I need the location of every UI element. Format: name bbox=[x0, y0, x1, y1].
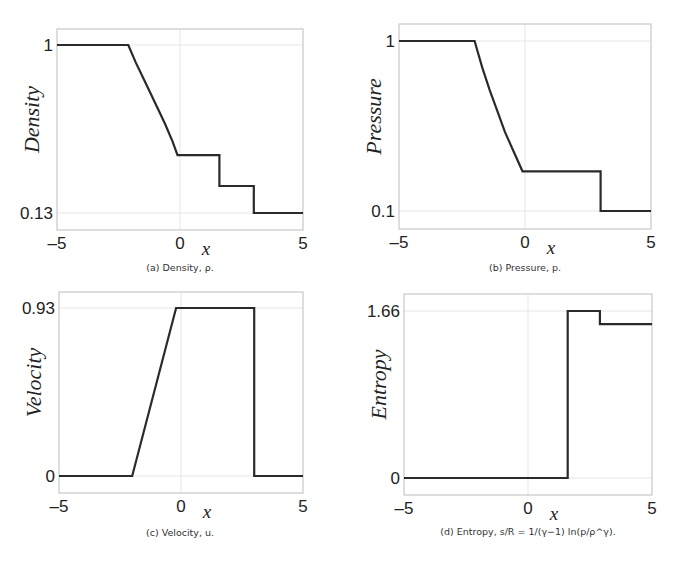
y-axis-label: Velocity bbox=[21, 347, 46, 417]
caption-d: (d) Entropy, s/R = 1/(γ−1) ln(p/ρ^γ). bbox=[440, 526, 615, 537]
caption-a-text: (a) Density, ρ. bbox=[146, 262, 213, 273]
x-tick-label: 0 bbox=[523, 499, 532, 518]
x-tick-label: 5 bbox=[647, 499, 656, 518]
caption-a: (a) Density, ρ. bbox=[146, 262, 213, 273]
y-tick-label: 1 bbox=[386, 32, 395, 51]
y-tick-label: 0.13 bbox=[20, 204, 53, 223]
y-axis-label: Pressure bbox=[361, 78, 386, 156]
y-tick-label: 1.66 bbox=[367, 302, 400, 321]
x-tick-label: 0 bbox=[175, 234, 184, 253]
chart-a: 0.131–505xDensity bbox=[19, 29, 308, 259]
x-axis-label: x bbox=[546, 237, 556, 258]
caption-d-text: (d) Entropy, s/R = 1/(γ−1) ln(p/ρ^γ). bbox=[440, 526, 615, 537]
y-axis-label: Entropy bbox=[366, 349, 391, 420]
x-tick-label: 0 bbox=[176, 497, 185, 516]
y-tick-label: 0 bbox=[391, 469, 400, 488]
x-axis-label: x bbox=[549, 503, 559, 524]
caption-b: (b) Pressure, p. bbox=[489, 262, 561, 273]
y-tick-label: 1 bbox=[44, 36, 53, 55]
x-tick-label: –5 bbox=[395, 499, 414, 518]
x-tick-label: 5 bbox=[298, 497, 307, 516]
x-tick-label: –5 bbox=[50, 497, 69, 516]
x-tick-label: 0 bbox=[520, 233, 529, 252]
x-tick-label: 5 bbox=[298, 234, 307, 253]
y-tick-label: 0 bbox=[46, 467, 55, 486]
chart-c: 00.93–505xVelocity bbox=[21, 292, 308, 522]
x-tick-label: –5 bbox=[48, 234, 67, 253]
caption-b-text: (b) Pressure, p. bbox=[489, 262, 561, 273]
x-axis-label: x bbox=[202, 501, 212, 522]
x-axis-label: x bbox=[201, 238, 211, 259]
y-tick-label: 0.93 bbox=[22, 299, 55, 318]
y-tick-label: 0.1 bbox=[371, 202, 395, 221]
chart-d: 01.66–505xEntropy bbox=[366, 294, 657, 524]
caption-c-text: (c) Velocity, u. bbox=[146, 527, 214, 538]
x-tick-label: –5 bbox=[390, 233, 409, 252]
x-tick-label: 5 bbox=[646, 233, 655, 252]
chart-b: 0.11–505xPressure bbox=[361, 24, 656, 258]
caption-c: (c) Velocity, u. bbox=[146, 527, 214, 538]
plots-canvas: 0.131–505xDensity0.11–505xPressure00.93–… bbox=[0, 0, 676, 562]
y-axis-label: Density bbox=[19, 86, 44, 154]
